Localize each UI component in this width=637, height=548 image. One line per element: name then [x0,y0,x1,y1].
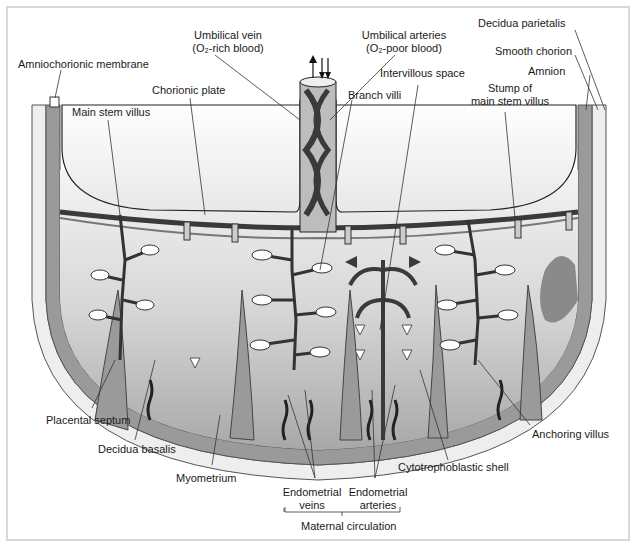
label-stump-line2: main stem villus [468,95,552,108]
label-endometrial-arteries-line1: Endometrial [346,486,410,499]
label-umbilical-vein-line2: (O₂-rich blood) [180,42,276,55]
label-endometrial-arteries-line2: arteries [346,499,410,512]
label-intervillous-space: Intervillous space [380,67,465,80]
label-endometrial-veins: Endometrial veins [280,486,344,512]
label-anchoring-villus: Anchoring villus [532,428,609,441]
label-stump-main-stem-villus: Stump of main stem villus [468,82,552,108]
label-maternal-circulation: Maternal circulation [301,520,396,533]
label-umbilical-arteries: Umbilical arteries (O₂-poor blood) [350,29,458,55]
label-main-stem-villus: Main stem villus [72,106,150,119]
label-endometrial-veins-line2: veins [280,499,344,512]
label-amniochorionic-membrane: Amniochorionic membrane [18,58,149,71]
label-decidua-parietalis: Decidua parietalis [478,17,565,30]
label-stump-line1: Stump of [468,82,552,95]
label-umbilical-vein-line1: Umbilical vein [180,29,276,42]
label-amnion: Amnion [528,65,565,78]
label-branch-villi: Branch villi [348,89,401,102]
label-decidua-basalis: Decidua basalis [98,443,176,456]
amniochorionic-membrane-marker [50,97,59,107]
label-endometrial-arteries: Endometrial arteries [346,486,410,512]
label-myometrium: Myometrium [176,472,237,485]
label-placental-septum: Placental septum [46,414,130,427]
label-umbilical-arteries-line1: Umbilical arteries [350,29,458,42]
label-umbilical-arteries-line2: (O₂-poor blood) [350,42,458,55]
label-chorionic-plate: Chorionic plate [152,84,225,97]
label-endometrial-veins-line1: Endometrial [280,486,344,499]
label-smooth-chorion: Smooth chorion [495,45,572,58]
label-umbilical-vein: Umbilical vein (O₂-rich blood) [180,29,276,55]
label-cytotrophoblastic-shell: Cytotrophoblastic shell [398,461,509,474]
